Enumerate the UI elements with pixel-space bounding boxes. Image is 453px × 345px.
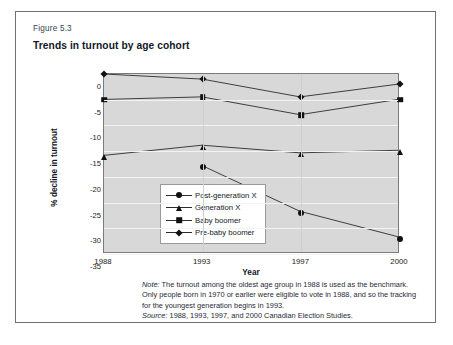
y-axis-tick-label: -10 — [75, 133, 101, 142]
square-data-point — [397, 97, 403, 103]
circle-data-point — [397, 236, 403, 242]
circle-marker — [166, 189, 192, 201]
figure-footnotes: Note: The turnout among the oldest age g… — [142, 280, 432, 321]
legend-item: Baby boomer — [166, 214, 257, 227]
x-axis-tick-label: 1997 — [292, 257, 309, 266]
legend-item: Post-generation X — [166, 189, 257, 202]
gridline — [104, 151, 398, 152]
y-axis-tick-label: 0 — [75, 82, 101, 91]
x-axis-ticks: 1988199319972000 — [103, 257, 399, 269]
y-axis-tick-label: -20 — [75, 184, 101, 193]
x-axis-tick-label: 2000 — [390, 257, 407, 266]
y-axis-tick-label: -25 — [75, 210, 101, 219]
square-marker — [166, 214, 192, 226]
source-line: Source: 1988, 1993, 1997, and 2000 Canad… — [142, 311, 432, 321]
legend-label: Generation X — [192, 203, 240, 212]
note-label: Note: — [142, 280, 160, 289]
plot-area: Post-generation XGeneration XBaby boomer… — [103, 73, 399, 253]
source-label: Source: — [142, 311, 167, 320]
y-axis-tick-label: -30 — [75, 236, 101, 245]
gridline — [104, 177, 398, 178]
gridline — [104, 100, 398, 101]
y-axis-title: % decline in turnout — [50, 103, 59, 233]
triangle-data-point — [101, 154, 107, 160]
gridline — [104, 125, 398, 126]
source-text: 1988, 1993, 1997, and 2000 Canadian Elec… — [167, 311, 352, 320]
gridline — [104, 203, 398, 204]
figure-number: Figure 5.3 — [33, 24, 72, 33]
note-line-1: Note: The turnout among the oldest age g… — [142, 280, 432, 290]
series-line — [104, 74, 398, 97]
y-axis-tick-label: -15 — [75, 159, 101, 168]
x-axis-tick-label: 1993 — [193, 257, 210, 266]
vertical-gridline — [203, 74, 204, 252]
y-axis-ticks: 0-5-10-15-20-25-30-35 — [71, 73, 101, 253]
gridline — [104, 254, 398, 255]
legend-label: Baby boomer — [192, 216, 241, 225]
gridline — [104, 228, 398, 229]
legend-label: Pre-baby boomer — [192, 228, 254, 237]
x-axis-title: Year — [103, 268, 399, 277]
note-line-2: Only people born in 1970 or earlier were… — [142, 290, 432, 300]
vertical-gridline — [301, 74, 302, 252]
y-axis-tick-label: -5 — [75, 107, 101, 116]
figure-card: Figure 5.3 Trends in turnout by age coho… — [15, 11, 436, 323]
figure-title: Trends in turnout by age cohort — [33, 40, 189, 51]
chart-area: % decline in turnout Year 0-5-10-15-20-2… — [33, 60, 423, 275]
chart-legend: Post-generation XGeneration XBaby boomer… — [160, 184, 266, 244]
x-axis-tick-label: 1988 — [94, 257, 111, 266]
note-text-1: The turnout among the oldest age group i… — [160, 280, 408, 289]
note-line-3: for the youngest generation begins in 19… — [142, 301, 432, 311]
